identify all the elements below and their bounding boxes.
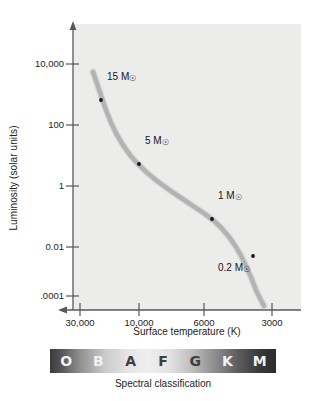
- spectral-class-A: A: [115, 349, 147, 373]
- annotation-mass-text: 0.2 M: [218, 262, 243, 273]
- y-axis-title-text: Luminosity (solar units): [8, 108, 19, 248]
- spectral-classification-caption: Spectral classification: [50, 378, 276, 389]
- annotation-02-msun: 0.2 M☉: [218, 262, 250, 274]
- spectral-class-B: B: [82, 349, 114, 373]
- y-tick-00001: .0001: [0, 291, 64, 301]
- spectral-class-letters: O B A F G K M: [50, 349, 276, 373]
- annotation-mass-text: 5 M: [145, 135, 162, 146]
- hr-diagram-figure: 10,000 100 1 0.01 .0001 30,000 10,000 60…: [0, 0, 314, 401]
- x-axis-title: Surface temperature (K): [73, 326, 301, 337]
- spectral-class-O: O: [50, 349, 82, 373]
- annotation-mass-text: 1 M: [218, 190, 235, 201]
- marker-02-msun: [251, 254, 255, 258]
- spectral-class-F: F: [147, 349, 179, 373]
- sun-symbol-icon: ☉: [162, 138, 169, 147]
- spectral-class-M: M: [244, 349, 276, 373]
- data-point-markers: [99, 98, 255, 258]
- marker-15-msun: [99, 98, 103, 102]
- spectral-class-G: G: [179, 349, 211, 373]
- sun-symbol-icon: ☉: [243, 265, 250, 274]
- marker-5-msun: [137, 162, 141, 166]
- sun-symbol-icon: ☉: [129, 74, 136, 83]
- annotation-15-msun: 15 M☉: [107, 71, 136, 83]
- marker-1-msun: [210, 217, 214, 221]
- annotation-5-msun: 5 M☉: [145, 135, 169, 147]
- annotation-1-msun: 1 M☉: [218, 190, 242, 202]
- spectral-class-K: K: [211, 349, 243, 373]
- y-axis-title: Luminosity (solar units): [8, 0, 19, 108]
- y-tick-label: .0001: [8, 291, 64, 301]
- annotation-mass-text: 15 M: [107, 71, 129, 82]
- sun-symbol-icon: ☉: [235, 193, 242, 202]
